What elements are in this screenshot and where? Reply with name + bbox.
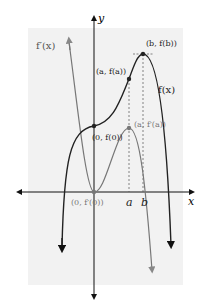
point-0-fp0 [92,190,96,194]
point-0-f0 [92,124,96,128]
point-a-fpa [127,126,131,130]
f-prime-curve [69,42,152,270]
label-0-fp0: (0, f′(0)) [71,198,104,207]
point-a-fa [127,77,131,81]
label-0-f0: (0, f(0)) [92,133,123,142]
label-a-fpa: (a, f′(a)) [134,120,166,129]
point-b-fb [141,52,145,56]
y-axis-label: y [97,12,105,25]
tick-label-b: b [141,196,148,209]
x-axis-label: x [188,195,195,208]
label-b-fb: (b, f(b)) [146,39,177,48]
f-prime-curve-label: f′(x) [36,40,56,51]
f-curve-label: f(x) [158,84,175,95]
f-prime-curve-top-arrow [69,40,70,50]
tick-label-a: a [126,196,133,209]
graph-canvas: y x f′(x) f(x) (b, f(b)) (a, f(a)) (0, f… [0,0,205,305]
label-a-fa: (a, f(a)) [96,67,126,76]
f-curve [62,54,171,247]
